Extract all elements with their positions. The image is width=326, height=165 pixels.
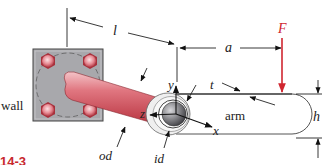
thickness-label: t xyxy=(210,78,214,91)
length-label: l xyxy=(113,24,117,38)
height-label: h xyxy=(313,110,320,124)
wall-label: wall xyxy=(1,99,23,112)
offset-label: a xyxy=(225,41,232,55)
cantilever-bracket-diagram: wall l a F t y z x arm h od id 14-3 xyxy=(0,0,326,165)
arm-label: arm xyxy=(225,109,245,122)
force-label: F xyxy=(278,22,287,36)
x-axis-label: x xyxy=(213,124,219,137)
z-axis-label: z xyxy=(140,107,145,120)
outer-diameter-label: od xyxy=(99,149,112,162)
inner-diameter-label: id xyxy=(154,152,164,165)
figure-number: 14-3 xyxy=(0,155,26,165)
y-axis-label: y xyxy=(168,78,174,91)
